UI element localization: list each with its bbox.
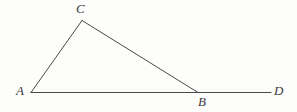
segment-CB	[82, 21, 198, 93]
geometry-canvas	[0, 0, 297, 112]
vertex-label-d: D	[274, 84, 283, 97]
geometry-figure: A B C D	[0, 0, 297, 112]
segment-AC	[31, 21, 82, 93]
vertex-label-a: A	[16, 84, 24, 97]
vertex-label-b: B	[198, 95, 206, 108]
vertex-label-c: C	[76, 2, 85, 15]
